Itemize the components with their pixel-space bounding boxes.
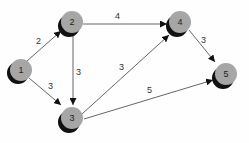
node-label: 4 [177, 17, 182, 27]
node-1[interactable]: 1 [7, 59, 32, 84]
edge-weight-label: 3 [76, 67, 81, 77]
edge-weight-label: 2 [36, 36, 41, 46]
edge-weight-label: 4 [115, 11, 120, 21]
node-label: 2 [69, 17, 74, 27]
edge-weight-label: 3 [201, 35, 206, 45]
edge-1-3: 3 [29, 78, 61, 105]
node-3[interactable]: 3 [58, 107, 83, 133]
edge-weight-label: 3 [48, 81, 53, 91]
graph-canvas: 2 3 4 3 3 5 3 1 [0, 0, 249, 143]
edge-2-4: 4 [83, 11, 167, 24]
edge-4-5: 3 [189, 30, 215, 62]
node-label: 1 [18, 65, 23, 75]
edge-3-5: 5 [84, 80, 213, 119]
node-label: 3 [69, 113, 74, 123]
node-4[interactable]: 4 [166, 11, 191, 37]
edge-3-4: 3 [82, 35, 169, 114]
node-5[interactable]: 5 [212, 63, 237, 89]
edge-weight-label: 5 [147, 85, 152, 95]
edge-2-3: 3 [73, 34, 81, 105]
node-label: 5 [223, 69, 228, 79]
edge-1-2: 2 [27, 31, 61, 61]
node-2[interactable]: 2 [58, 11, 83, 37]
graph-svg: 2 3 4 3 3 5 3 1 [0, 0, 249, 143]
edge-weight-label: 3 [119, 62, 124, 72]
